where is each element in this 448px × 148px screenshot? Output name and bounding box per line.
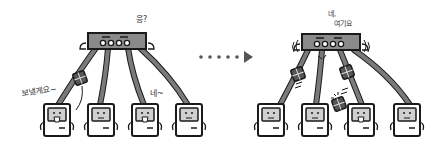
computer-left-1 [40, 104, 73, 136]
computer-left-4 [172, 104, 205, 136]
computer-left-3 [128, 104, 161, 136]
receiver-speech: 네~ [150, 90, 164, 98]
hub-speech-left: 응? [136, 16, 147, 24]
hub-speech-right-line2: 여기요 [334, 21, 352, 28]
computer-right-4 [390, 104, 423, 136]
computer-right-2 [298, 104, 331, 136]
hub-broadcast-diagram: 응? 보낼게요~ 네~ 네, 여기요 [0, 0, 448, 148]
computer-left-2 [84, 104, 117, 136]
hub-left [80, 33, 154, 49]
hub-right [294, 34, 368, 50]
packet-right-3 [331, 96, 346, 111]
hub-speech-right-line1: 네, [328, 11, 336, 18]
right-panel [254, 34, 423, 136]
computer-right-3 [344, 104, 377, 136]
dotted-arrow-right-icon [199, 51, 253, 63]
left-panel [40, 33, 205, 136]
computer-right-1 [254, 104, 287, 136]
